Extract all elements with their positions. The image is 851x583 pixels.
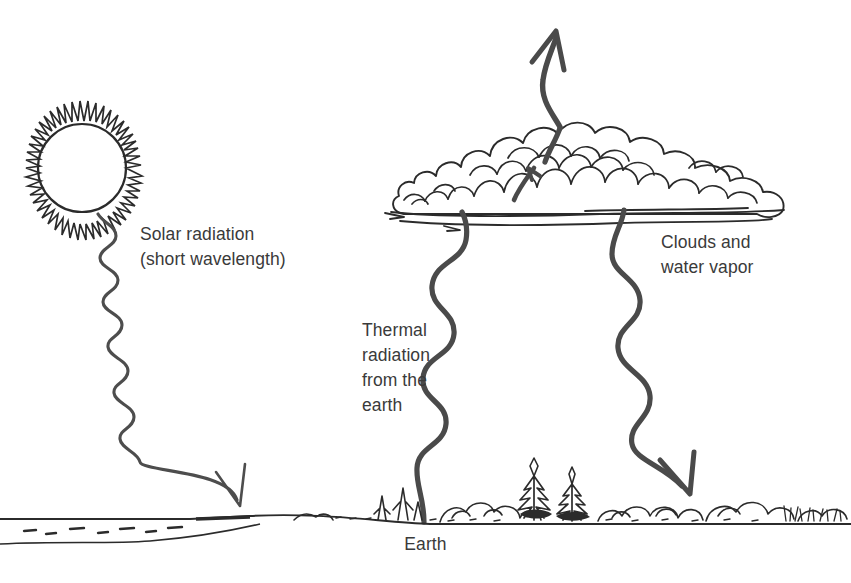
clouds-label-line1: Clouds and <box>661 232 751 252</box>
cloud-base-line <box>444 226 460 231</box>
clouds-label-line2: water vapor <box>661 257 754 277</box>
diagram-canvas <box>0 0 851 583</box>
earth-label-text: Earth <box>404 532 446 557</box>
clouds-water-vapor-label: Clouds andwater vapor <box>661 230 754 280</box>
conifer-tree-top <box>530 458 538 476</box>
bush <box>598 507 703 521</box>
sun-rays <box>26 101 142 240</box>
conifer-tree-top <box>569 467 575 484</box>
solar-radiation-label-line2: (short wavelength) <box>140 249 286 269</box>
small-conifer <box>393 488 413 520</box>
sun-disc <box>38 124 126 212</box>
radiation-balance-diagram: Solar radiation(short wavelength) Therma… <box>0 0 851 583</box>
solar-radiation-label-line1: Solar radiation <box>140 224 254 244</box>
sun-icon <box>26 101 142 240</box>
solar-radiation-label: Solar radiation(short wavelength) <box>140 222 286 272</box>
thermal-radiation-label-line4: earth <box>362 395 402 415</box>
landscape-treeline <box>294 458 847 522</box>
bush <box>706 502 794 521</box>
small-conifer <box>374 496 390 520</box>
cloud-icon <box>385 123 784 231</box>
thermal-radiation-label-line3: from the <box>362 370 427 390</box>
horizon-accent <box>196 517 250 519</box>
cloud-outline <box>393 123 783 217</box>
ground-speckles <box>336 517 758 521</box>
cloud-base-line <box>400 219 772 225</box>
escaping-arrow-shaft <box>543 38 560 127</box>
thermal-radiation-label-line2: radiation <box>362 345 430 365</box>
earth-label: Earth <box>0 532 851 557</box>
thermal-radiation-label-line1: Thermal <box>362 320 427 340</box>
thermal-radiation-label: Thermalradiationfrom theearth <box>362 318 430 418</box>
bush <box>452 511 470 518</box>
